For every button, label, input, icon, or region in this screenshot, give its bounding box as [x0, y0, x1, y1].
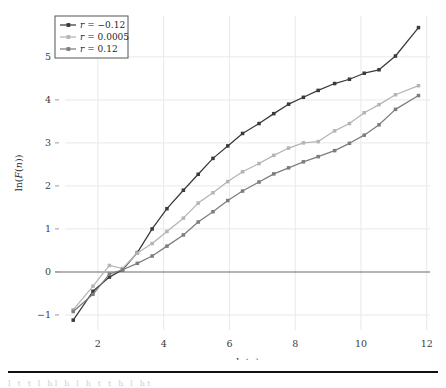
series-2-point-20 — [377, 123, 381, 127]
x-axis-tick-labels: 24681012 — [95, 338, 433, 349]
figure-page: −1012345 24681012 ln(n)ln(F(n)) r = −0.1… — [0, 0, 446, 388]
series-1-point-5 — [150, 242, 154, 246]
legend-marker-2 — [67, 47, 71, 51]
x-tick-label: 12 — [421, 338, 433, 349]
series-1-point-4 — [136, 251, 140, 255]
series-1-point-15 — [302, 141, 306, 145]
y-tick-label: 3 — [45, 137, 51, 148]
series-2-point-10 — [226, 199, 230, 203]
series-1-point-18 — [348, 122, 352, 126]
page-horizontal-rule — [8, 371, 438, 373]
series-0-point-12 — [257, 122, 261, 126]
legend-label-2: r = 0.12 — [80, 44, 118, 54]
chart-figure: −1012345 24681012 ln(n)ln(F(n)) r = −0.1… — [0, 0, 446, 360]
series-0-point-9 — [211, 157, 215, 161]
series-1-point-6 — [165, 230, 169, 234]
series-1-point-13 — [272, 154, 276, 158]
x-tick-label: 6 — [226, 338, 232, 349]
series-2-point-17 — [333, 149, 337, 153]
series-1-point-2 — [108, 264, 112, 268]
y-axis-title: ln(F(n)) — [13, 155, 24, 192]
series-0-point-0 — [71, 318, 75, 322]
x-tick-label: 10 — [355, 338, 367, 349]
clipped-caption-text: l t t l hl h l h t t h l ht — [8, 379, 438, 387]
series-1-point-11 — [241, 170, 245, 174]
series-0-point-6 — [165, 207, 169, 211]
series-2-point-7 — [182, 233, 186, 237]
series-0-point-19 — [362, 71, 366, 75]
series-1-point-16 — [316, 140, 320, 144]
series-2-point-2 — [108, 272, 112, 276]
y-tick-label: 1 — [45, 223, 51, 234]
chart-legend[interactable]: r = −0.12r = 0.0005r = 0.12 — [55, 16, 129, 58]
series-0-point-7 — [182, 188, 186, 192]
y-axis-tick-labels: −1012345 — [37, 51, 59, 320]
series-1-point-9 — [211, 191, 215, 195]
series-0-point-11 — [241, 132, 245, 136]
y-tick-label: 5 — [45, 51, 51, 62]
series-2-point-3 — [121, 268, 125, 272]
line-chart: −1012345 24681012 ln(n)ln(F(n)) r = −0.1… — [0, 0, 446, 360]
series-2-point-12 — [257, 180, 261, 184]
series-0-point-8 — [196, 173, 200, 177]
series-lines — [71, 26, 420, 322]
series-2-point-11 — [241, 189, 245, 193]
series-2-point-21 — [394, 108, 398, 112]
series-2-point-18 — [348, 142, 352, 146]
series-0-point-15 — [302, 96, 306, 100]
y-tick-label: 4 — [45, 94, 51, 105]
series-0-point-16 — [316, 89, 320, 93]
series-1-point-8 — [196, 201, 200, 205]
y-tick-label: 0 — [45, 266, 51, 277]
series-2-point-5 — [150, 254, 154, 258]
series-2-point-8 — [196, 220, 200, 224]
series-2-point-13 — [272, 172, 276, 176]
series-1-point-19 — [362, 111, 366, 115]
series-2-point-0 — [71, 310, 75, 314]
series-0-point-20 — [377, 68, 381, 72]
series-line-0 — [73, 28, 418, 321]
series-2-point-19 — [362, 133, 366, 137]
series-0-point-13 — [272, 112, 276, 116]
series-1-point-10 — [226, 180, 230, 184]
series-0-point-5 — [150, 227, 154, 231]
series-0-point-17 — [333, 82, 337, 86]
x-tick-label: 4 — [161, 338, 167, 349]
series-2-point-16 — [316, 155, 320, 159]
series-0-point-14 — [287, 102, 291, 106]
series-2-point-4 — [136, 262, 140, 266]
legend-label-1: r = 0.0005 — [80, 32, 129, 42]
grid-lines — [65, 16, 430, 330]
legend-marker-1 — [67, 35, 71, 39]
series-0-point-10 — [226, 144, 230, 148]
series-2-point-9 — [211, 210, 215, 214]
series-2-point-22 — [417, 94, 421, 98]
series-1-point-1 — [91, 284, 95, 288]
y-tick-label: −1 — [37, 309, 51, 320]
legend-label-0: r = −0.12 — [80, 20, 125, 30]
series-1-point-17 — [333, 129, 337, 133]
series-line-2 — [73, 96, 418, 312]
series-1-point-21 — [394, 93, 398, 97]
series-1-point-14 — [287, 146, 291, 150]
legend-marker-0 — [67, 23, 71, 27]
x-tick-label: 8 — [292, 338, 298, 349]
x-axis-title: ln(n) — [236, 356, 259, 360]
series-0-point-21 — [394, 54, 398, 58]
series-1-point-12 — [257, 162, 261, 166]
y-tick-label: 2 — [45, 180, 51, 191]
series-0-point-18 — [348, 77, 352, 81]
series-2-point-1 — [91, 293, 95, 297]
x-tick-label: 2 — [95, 338, 101, 349]
series-2-point-14 — [287, 166, 291, 170]
series-1-point-20 — [377, 103, 381, 107]
series-0-point-22 — [417, 26, 421, 30]
series-2-point-15 — [302, 160, 306, 164]
series-line-1 — [73, 86, 418, 310]
series-1-point-22 — [417, 84, 421, 88]
series-1-point-7 — [182, 216, 186, 220]
series-2-point-6 — [165, 244, 169, 248]
